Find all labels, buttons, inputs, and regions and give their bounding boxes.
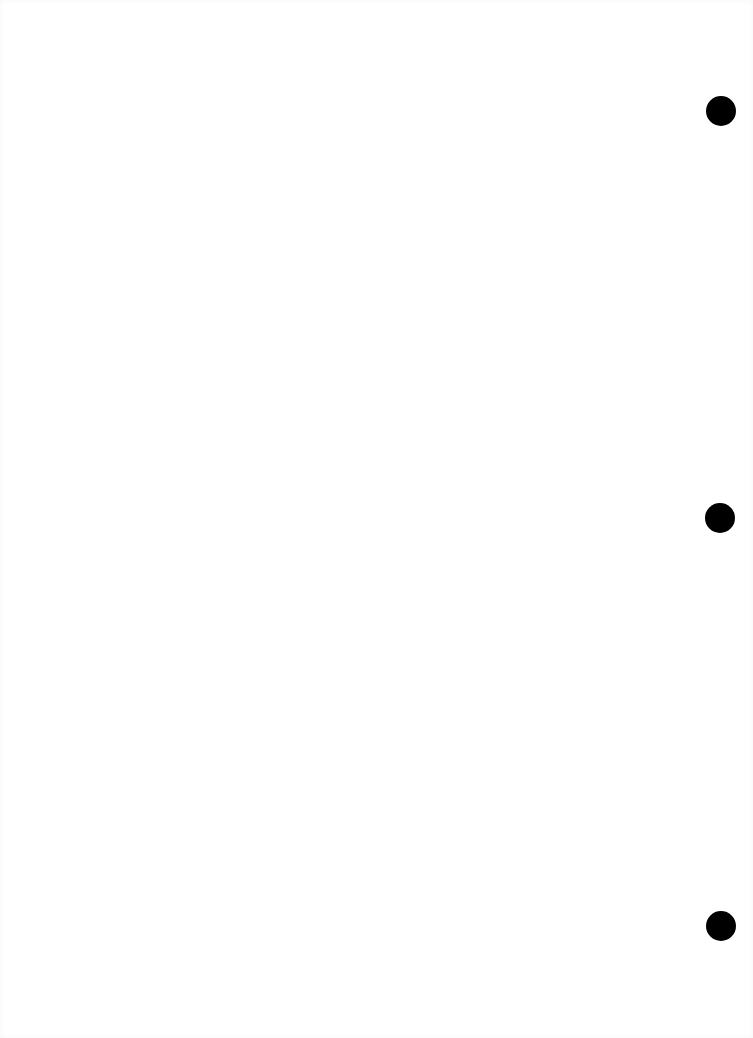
punch-hole-top <box>706 96 736 126</box>
punch-hole-bottom <box>706 911 736 941</box>
blank-page <box>0 0 753 1038</box>
punch-hole-middle <box>705 503 735 533</box>
